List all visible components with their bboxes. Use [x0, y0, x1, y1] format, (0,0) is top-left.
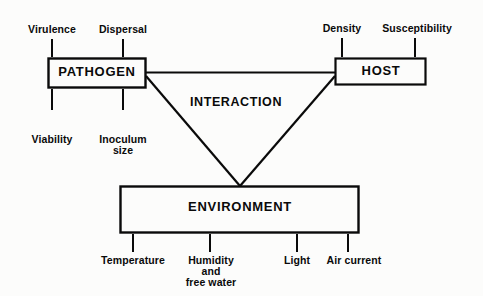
- interaction-label: INTERACTION: [190, 95, 282, 109]
- factor-dispersal: Dispersal: [99, 24, 147, 36]
- environment-label: ENVIRONMENT: [188, 200, 292, 215]
- factor-air-current: Air current: [327, 255, 382, 267]
- factor-susceptibility: Susceptibility: [382, 23, 452, 35]
- factor-inoculum-size: Inoculum size: [83, 134, 163, 156]
- factor-humidity-and-free-water: Humidity and free water: [161, 255, 261, 288]
- factor-inoculum-size-line2: size: [113, 144, 133, 156]
- factor-density: Density: [323, 23, 362, 35]
- pathogen-label: PATHOGEN: [58, 65, 135, 80]
- factor-temperature: Temperature: [101, 255, 165, 267]
- factor-humidity-line3: free water: [186, 276, 237, 288]
- factor-viability: Viability: [32, 134, 73, 146]
- host-label: HOST: [362, 64, 401, 79]
- diagram-vector-layer: [0, 0, 483, 296]
- diagram-canvas: PATHOGEN HOST ENVIRONMENT INTERACTION Vi…: [0, 0, 483, 296]
- host-environment-connector: [240, 76, 335, 186]
- pathogen-environment-connector: [146, 76, 240, 186]
- factor-light: Light: [284, 255, 310, 267]
- factor-virulence: Virulence: [28, 24, 76, 36]
